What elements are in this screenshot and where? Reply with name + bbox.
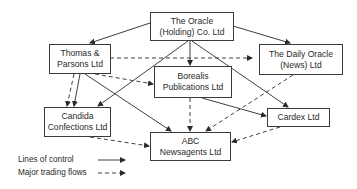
trading-line: [67, 74, 74, 106]
node-label-line: Candida: [61, 111, 93, 122]
node-oracle-holding: The Oracle (Holding) Co. Ltd: [150, 12, 234, 41]
node-label-line: The Daily Oracle: [269, 49, 333, 60]
node-label-line: Confections Ltd: [48, 122, 108, 133]
node-label-line: Borealis: [177, 71, 208, 82]
node-label-line: Newsagents Ltd: [160, 147, 222, 158]
legend: Lines of control Major trading flows: [18, 153, 87, 179]
legend-trading-label: Major trading flows: [18, 166, 87, 179]
control-line: [233, 26, 290, 43]
legend-trading: Major trading flows: [18, 166, 87, 179]
node-label-line: Cardex Ltd: [277, 112, 319, 123]
node-label-line: (News) Ltd: [280, 60, 322, 71]
node-label-line: The Oracle: [171, 16, 214, 27]
control-line: [74, 74, 80, 106]
trading-line: [232, 127, 280, 142]
legend-control-label: Lines of control: [18, 153, 74, 166]
legend-control: Lines of control: [18, 153, 87, 166]
node-label-line: Thomas &: [60, 48, 99, 59]
node-label-line: (Holding) Co. Ltd: [160, 27, 225, 38]
node-borealis: Borealis Publications Ltd: [154, 66, 232, 98]
control-line: [90, 23, 150, 43]
node-candida: Candida Confections Ltd: [44, 107, 111, 137]
node-label-line: Parsons Ltd: [57, 59, 103, 70]
trading-line: [90, 137, 149, 146]
node-cardex: Cardex Ltd: [267, 108, 330, 127]
node-label-line: ABC: [182, 136, 200, 147]
node-daily-oracle: The Daily Oracle (News) Ltd: [259, 44, 343, 75]
node-label-line: Publications Ltd: [163, 82, 224, 93]
trading-line: [95, 74, 153, 84]
node-abc-newsagents: ABC Newsagents Ltd: [150, 132, 231, 161]
node-thomas-parsons: Thomas & Parsons Ltd: [49, 44, 111, 74]
